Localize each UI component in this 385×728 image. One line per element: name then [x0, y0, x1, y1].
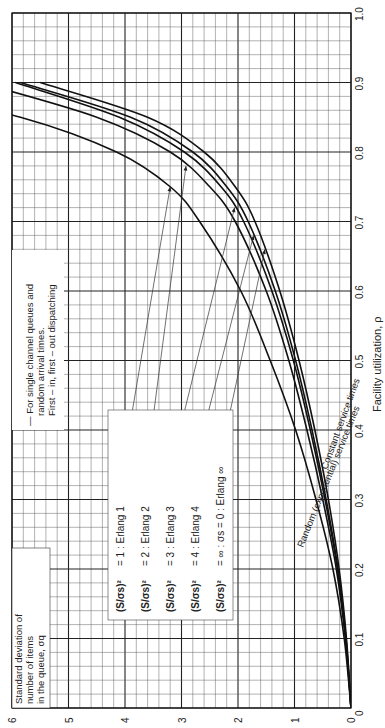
legend-item-1: (S/σs)² = 1 : Erlang 1 [115, 506, 126, 612]
ylabel-box: Standard deviation of number of items in… [12, 548, 50, 708]
chart-figure: 00.10.20.30.40.50.60.70.80.91.00123456 S… [0, 0, 385, 728]
svg-text:4: 4 [120, 717, 131, 723]
legend-item-2: (S/σs)² = 2 : Erlang 2 [140, 506, 151, 612]
svg-text:(S/σs)²: (S/σs)² [165, 579, 176, 612]
y-tick-label: 2 [233, 717, 244, 723]
legend: (S/σs)² = 1 : Erlang 1(S/σs)² = 2 : Erla… [108, 410, 233, 620]
svg-text:0.4: 0.4 [354, 424, 365, 438]
x-tick-label: 0.7 [354, 215, 365, 229]
svg-text:6: 6 [7, 717, 18, 723]
x-tick-label: 0.9 [354, 76, 365, 90]
note-line2: random arrival times. [35, 327, 46, 416]
rotated-line-chart: 00.10.20.30.40.50.60.70.80.91.00123456 S… [0, 0, 385, 728]
svg-text:0.1: 0.1 [354, 632, 365, 646]
x-tick-label: 1.0 [354, 7, 365, 21]
x-tick-label: 0.4 [354, 424, 365, 438]
svg-text:3: 3 [177, 717, 188, 723]
x-tick-label: 0.6 [354, 285, 365, 299]
y-tick-label: 6 [7, 717, 18, 723]
svg-text:0.8: 0.8 [354, 146, 365, 160]
svg-text:= 3 : Erlang 3: = 3 : Erlang 3 [165, 506, 176, 566]
svg-text:= ∞ : σs = 0 : Erlang ∞: = ∞ : σs = 0 : Erlang ∞ [215, 467, 226, 566]
legend-item-4: (S/σs)² = 4 : Erlang 4 [190, 506, 201, 612]
svg-text:(S/σs)²: (S/σs)² [140, 579, 151, 612]
legend-item-3: (S/σs)² = 3 : Erlang 3 [165, 506, 176, 612]
x-tick-label: 0.2 [354, 563, 365, 577]
svg-text:5: 5 [64, 717, 75, 723]
ylabel-line1: Standard deviation of [13, 614, 24, 704]
y-tick-label: 3 [177, 717, 188, 723]
svg-text:0: 0 [346, 717, 357, 723]
y-tick-label: 0 [346, 717, 357, 723]
svg-text:1.0: 1.0 [354, 7, 365, 21]
x-tick-label: 0.3 [354, 493, 365, 507]
xaxis-title: Facility utilization, ρ [371, 316, 383, 412]
arrowhead-icon [232, 208, 236, 213]
note-line3: First – in, first – out dispatching [46, 285, 57, 416]
svg-text:(S/σs)²: (S/σs)² [115, 579, 126, 612]
x-tick-label: 0.8 [354, 146, 365, 160]
svg-text:= 1 : Erlang 1: = 1 : Erlang 1 [115, 506, 126, 566]
svg-text:= 4 : Erlang 4: = 4 : Erlang 4 [190, 506, 201, 566]
arrowhead-icon [183, 166, 187, 171]
legend-item-5: (S/σs)² = ∞ : σs = 0 : Erlang ∞ [215, 467, 226, 612]
x-tick-label: 0 [354, 710, 365, 716]
svg-text:0.6: 0.6 [354, 285, 365, 299]
svg-text:0.7: 0.7 [354, 215, 365, 229]
conditions-note: — For single channel queues and random a… [12, 250, 64, 430]
svg-text:0.5: 0.5 [354, 354, 365, 368]
svg-text:= 2 : Erlang 2: = 2 : Erlang 2 [140, 506, 151, 566]
x-tick-label: 0.5 [354, 354, 365, 368]
svg-text:2: 2 [233, 717, 244, 723]
svg-text:(S/σs)²: (S/σs)² [215, 579, 226, 612]
ylabel-line2: number of items [24, 636, 35, 704]
y-tick-label: 5 [64, 717, 75, 723]
ylabel-line3: in the queue, σq [35, 635, 46, 704]
svg-text:0.9: 0.9 [354, 76, 365, 90]
svg-text:1: 1 [290, 717, 301, 723]
note-line1: — For single channel queues and [24, 284, 35, 426]
y-tick-label: 4 [120, 717, 131, 723]
y-tick-label: 1 [290, 717, 301, 723]
svg-text:Facility utilization, ρ: Facility utilization, ρ [371, 316, 383, 412]
x-tick-label: 0.1 [354, 632, 365, 646]
svg-text:0: 0 [354, 710, 365, 716]
svg-text:(S/σs)²: (S/σs)² [190, 579, 201, 612]
svg-text:0.3: 0.3 [354, 493, 365, 507]
svg-text:0.2: 0.2 [354, 563, 365, 577]
